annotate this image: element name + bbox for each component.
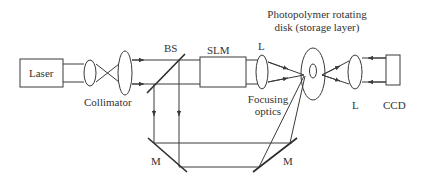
photopolymer-disk-icon bbox=[301, 48, 325, 100]
ccd-box bbox=[386, 55, 400, 85]
reference-beams-down bbox=[154, 60, 179, 167]
focusing-lens-label: L bbox=[258, 40, 265, 52]
readout-lens-icon bbox=[348, 55, 362, 89]
mirror-horizontal-beams bbox=[154, 143, 292, 167]
mirror-left-label: M bbox=[151, 155, 161, 167]
slm-box bbox=[200, 57, 246, 87]
mirror-right-label: M bbox=[283, 155, 293, 167]
laser-label: Laser bbox=[29, 67, 53, 79]
reference-beams-up bbox=[259, 76, 305, 167]
laser-output-beam bbox=[63, 64, 84, 82]
slm-label: SLM bbox=[207, 44, 230, 56]
object-beam-focus bbox=[268, 62, 304, 82]
collimator-lens-small-icon bbox=[84, 60, 96, 86]
collimator-label: Collimator bbox=[84, 96, 132, 108]
focusing-optics-label-line2: optics bbox=[242, 105, 294, 117]
optical-setup-diagram: Laser Collimator BS SLM L Focusing optic… bbox=[0, 0, 424, 187]
collimated-beams bbox=[132, 60, 200, 84]
collimator-crossing-beams bbox=[96, 64, 119, 82]
disk-spindle-hole-icon bbox=[310, 64, 317, 78]
readout-beam bbox=[322, 61, 349, 84]
readout-lens-label: L bbox=[352, 99, 359, 111]
disk-label-line2: disk (storage layer) bbox=[262, 21, 372, 33]
focusing-optics-label-line1: Focusing bbox=[242, 93, 294, 105]
disk-label-line1: Photopolymer rotating bbox=[262, 8, 372, 20]
collimator-lens-large-icon bbox=[118, 51, 132, 95]
focusing-lens-icon bbox=[256, 55, 268, 89]
beam-splitter-label: BS bbox=[164, 42, 177, 54]
ccd-input-beams bbox=[362, 58, 386, 82]
ccd-label: CCD bbox=[383, 99, 406, 111]
